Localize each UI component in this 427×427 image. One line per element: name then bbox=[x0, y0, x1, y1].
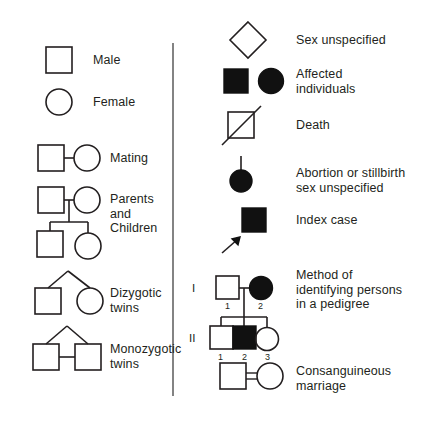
label-death: Death bbox=[296, 118, 330, 133]
label-affected-individuals: Affected individuals bbox=[296, 67, 355, 96]
pedigree-II-3-circle bbox=[256, 328, 279, 351]
label-consanguineous-marriage: Consanguineous marriage bbox=[296, 364, 391, 393]
pedigree-number-II-3: 3 bbox=[265, 353, 270, 362]
index-case-icon bbox=[222, 208, 266, 253]
index-case-square-icon bbox=[242, 208, 266, 232]
pedigree-number-II-2: 2 bbox=[242, 353, 247, 362]
pedigree-number-II-1: 1 bbox=[218, 353, 223, 362]
death-icon bbox=[222, 106, 261, 145]
label-abortion-stillbirth: Abortion or stillbirth sex unspecified bbox=[296, 166, 405, 195]
pedigree-number-I-1: 1 bbox=[225, 302, 230, 311]
affected-circle-filled-icon bbox=[259, 69, 284, 94]
right-column-symbols bbox=[0, 0, 427, 427]
label-sex-unspecified: Sex unspecified bbox=[296, 33, 386, 48]
pedigree-II-2-square-filled bbox=[233, 326, 256, 349]
consanguineous-marriage-icon bbox=[220, 363, 283, 389]
sex-unspecified-diamond-icon bbox=[230, 22, 266, 58]
generation-label-II: II bbox=[189, 332, 195, 344]
numbered-pedigree-example bbox=[210, 276, 279, 351]
label-index-case: Index case bbox=[296, 213, 357, 228]
generation-label-I: I bbox=[192, 282, 195, 294]
label-method-identifying: Method of identifying persons in a pedig… bbox=[296, 268, 402, 312]
pedigree-legend: Male Female Mating Parents and Children … bbox=[0, 0, 427, 427]
pedigree-I-2-circle-filled bbox=[250, 277, 273, 300]
pedigree-I-1-square bbox=[216, 276, 239, 299]
pedigree-number-I-2: 2 bbox=[258, 302, 263, 311]
affected-individuals-icon bbox=[224, 69, 284, 94]
abortion-stillbirth-icon bbox=[230, 156, 252, 192]
pedigree-II-1-square bbox=[210, 326, 233, 349]
affected-square-filled-icon bbox=[224, 69, 248, 93]
